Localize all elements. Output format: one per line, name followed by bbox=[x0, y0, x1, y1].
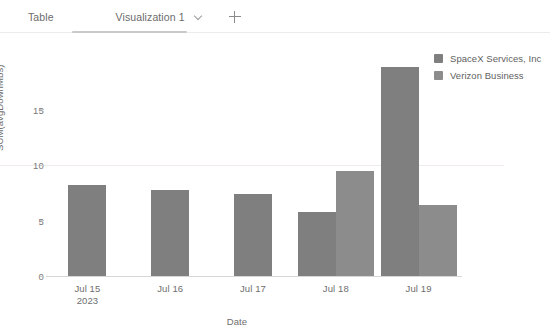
x-axis-tick-label: Jul 152023 bbox=[46, 283, 129, 307]
y-axis-tick-mark bbox=[40, 276, 44, 277]
y-axis-tick-label: 10 bbox=[10, 160, 44, 171]
y-axis-title: SUM(avgDownMbs) bbox=[0, 65, 5, 152]
y-axis-tick-label: 0 bbox=[10, 271, 44, 282]
tab-visualization-1[interactable]: Visualization 1 bbox=[106, 0, 212, 33]
x-axis-tick-label: Jul 17 bbox=[212, 283, 295, 295]
x-axis-tick-label: Jul 16 bbox=[129, 283, 212, 295]
tab-bar: Table Visualization 1 bbox=[0, 0, 550, 33]
legend-swatch bbox=[434, 54, 443, 63]
tab-table[interactable]: Table bbox=[18, 0, 64, 33]
y-axis-tick-mark bbox=[40, 109, 44, 110]
y-axis-tick-label: 5 bbox=[10, 215, 44, 226]
chevron-down-icon[interactable] bbox=[195, 12, 202, 19]
y-axis-tick-label: 15 bbox=[10, 104, 44, 115]
tab-visualization-1-label: Visualization 1 bbox=[116, 11, 185, 23]
y-axis-tick-mark bbox=[40, 165, 44, 166]
y-axis-tick-mark bbox=[40, 220, 44, 221]
x-axis-tick-label: Jul 18 bbox=[294, 283, 377, 295]
add-visualization-button[interactable] bbox=[226, 8, 244, 26]
bar[interactable] bbox=[298, 212, 336, 276]
tab-table-label: Table bbox=[28, 11, 54, 23]
bar[interactable] bbox=[419, 205, 457, 276]
chart-legend: SpaceX Services, IncVerizon Business bbox=[434, 51, 550, 85]
bar[interactable] bbox=[151, 190, 189, 276]
legend-item-label: Verizon Business bbox=[450, 70, 524, 81]
chart-container: SUM(avgDownMbs) 051015 Jul 152023Jul 16J… bbox=[0, 33, 550, 334]
bar[interactable] bbox=[234, 194, 272, 276]
legend-item-label: SpaceX Services, Inc bbox=[450, 53, 541, 64]
legend-swatch bbox=[434, 71, 443, 80]
x-axis-tick-label: Jul 19 bbox=[377, 283, 460, 295]
bar[interactable] bbox=[336, 171, 374, 276]
visualization-page: Table Visualization 1 SUM(avgDownMbs) 05… bbox=[0, 0, 550, 334]
x-axis-ticks: Jul 152023Jul 16Jul 17Jul 18Jul 19 bbox=[46, 283, 462, 317]
plot-area bbox=[46, 60, 460, 276]
legend-item[interactable]: Verizon Business bbox=[434, 68, 550, 83]
x-axis-title: Date bbox=[0, 316, 474, 327]
legend-item[interactable]: SpaceX Services, Inc bbox=[434, 51, 550, 66]
bar[interactable] bbox=[381, 67, 419, 276]
x-axis-line bbox=[46, 276, 462, 277]
bar[interactable] bbox=[68, 185, 106, 276]
